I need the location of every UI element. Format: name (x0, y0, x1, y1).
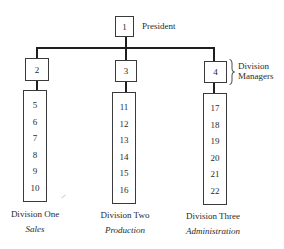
manager-stem-division-two (125, 82, 127, 92)
staff-id: 22 (211, 186, 220, 196)
manager-box-division-three: 4 (204, 61, 227, 83)
staff-column-division-one: 5 6 7 8 9 10 (23, 90, 47, 202)
staff-id: 6 (33, 117, 38, 127)
president-box: 1 (115, 16, 134, 37)
connector-division-two (125, 47, 127, 60)
division-managers-line2: Managers (238, 71, 274, 81)
division-managers-line1: Division (238, 61, 274, 71)
manager-stem-division-one (36, 81, 38, 90)
staff-id: 18 (211, 120, 220, 130)
staff-id: 9 (33, 166, 38, 176)
president-label: President (142, 21, 176, 31)
staff-id: 15 (120, 168, 129, 178)
staff-id: 11 (120, 102, 129, 112)
manager-box-division-two: 3 (115, 60, 137, 82)
manager-id: 4 (213, 67, 218, 77)
manager-id: 3 (124, 66, 129, 76)
staff-id: 12 (120, 119, 129, 129)
division-name: Division One (11, 209, 59, 219)
division-function: Administration (186, 226, 240, 236)
staff-id: 7 (33, 133, 38, 143)
division-function: Production (105, 225, 145, 235)
staff-column-division-three: 17 18 19 20 21 22 (203, 93, 227, 205)
connector-division-three (213, 49, 215, 61)
staff-id: 19 (211, 136, 220, 146)
stray-mark (61, 195, 65, 199)
manager-stem-division-three (213, 83, 215, 93)
staff-id: 17 (211, 103, 220, 113)
staff-id: 8 (33, 150, 38, 160)
staff-id: 14 (120, 152, 129, 162)
division-name: Division Two (101, 210, 150, 220)
division-function: Sales (26, 224, 45, 234)
brace-icon (229, 59, 235, 85)
staff-id: 13 (120, 135, 129, 145)
manager-box-division-one: 2 (25, 58, 49, 81)
connector-division-one (36, 47, 38, 58)
division-managers-label: Division Managers (238, 61, 274, 81)
staff-id: 5 (33, 100, 38, 110)
division-name: Division Three (186, 211, 240, 221)
staff-id: 20 (211, 153, 220, 163)
president-id: 1 (122, 22, 127, 32)
staff-id: 21 (211, 169, 220, 179)
manager-id: 2 (35, 65, 40, 75)
staff-column-division-two: 11 12 13 14 15 16 (112, 92, 136, 204)
staff-id: 10 (31, 183, 40, 193)
staff-id: 16 (120, 185, 129, 195)
